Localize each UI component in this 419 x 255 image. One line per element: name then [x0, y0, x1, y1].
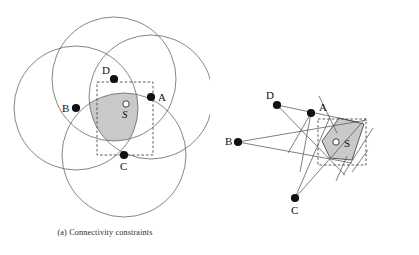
anchor-node-a: [307, 109, 315, 117]
anchor-node-b: [234, 138, 242, 146]
anchor-label-b: B: [62, 102, 69, 114]
anchor-label-d: D: [266, 89, 274, 101]
anchor-label-d: D: [102, 64, 110, 76]
target-label-a: S: [122, 108, 128, 120]
anchor-node-c: [120, 151, 128, 159]
caption-panel-a: (a) Connectivity constraints: [0, 228, 210, 237]
target-marker-a: [123, 101, 129, 107]
figure-container: A B C D S (a) Connectivity constraints: [0, 0, 419, 255]
panel-connectivity-constraints: A B C D S (a) Connectivity constraints: [0, 0, 210, 255]
anchor-node-d: [273, 101, 281, 109]
anchor-node-b: [72, 104, 80, 112]
anchor-label-c: C: [291, 204, 298, 216]
anchor-node-d: [110, 75, 118, 83]
panel-angular-constraints: A B C D S (b) Angular constraints: [210, 0, 419, 255]
connectivity-diagram: A B C D S: [0, 0, 210, 225]
angular-rays-a: [288, 113, 311, 172]
anchor-label-a: A: [158, 91, 166, 103]
anchor-node-a: [147, 93, 155, 101]
anchor-label-c: C: [120, 160, 127, 172]
anchor-node-c: [291, 194, 299, 202]
target-label-b: S: [344, 137, 350, 149]
anchor-label-b: B: [225, 135, 232, 147]
angular-diagram: A B C D S: [210, 0, 419, 225]
anchor-label-a: A: [319, 101, 327, 113]
target-marker-b: [333, 139, 339, 145]
feasible-region-a: [0, 0, 210, 225]
